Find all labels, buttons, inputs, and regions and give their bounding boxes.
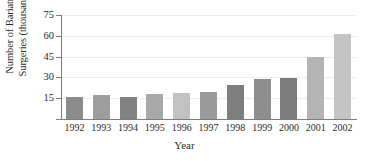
- y-axis-line: [61, 15, 62, 119]
- bariatric-surgeries-bar-chart: Number of Bariatric Surgeries (thousands…: [0, 0, 369, 161]
- chart-title: [150, 0, 290, 1]
- y-tick-label-30: 30: [36, 72, 54, 83]
- x-tick-label-1994: 1994: [114, 122, 142, 133]
- x-tick-label-2002: 2002: [329, 122, 357, 133]
- bar-2000: [280, 78, 297, 119]
- y-axis-title: Number of Bariatric Surgeries (thousands…: [4, 0, 32, 88]
- x-tick-label-1999: 1999: [248, 122, 276, 133]
- y-tick-mark-60: [56, 36, 62, 37]
- y-axis-title-line-1: Number of Bariatric: [4, 0, 17, 88]
- x-tick-label-2001: 2001: [302, 122, 330, 133]
- bar-1992: [66, 97, 83, 119]
- bar-1997: [200, 92, 217, 119]
- x-tick-label-1998: 1998: [221, 122, 249, 133]
- bar-1993: [93, 95, 110, 119]
- y-tick-mark-15: [56, 98, 62, 99]
- y-tick-mark-30: [56, 77, 62, 78]
- gridline-60: [61, 36, 356, 37]
- bar-1996: [173, 93, 190, 119]
- x-tick-label-1992: 1992: [60, 122, 88, 133]
- x-axis-title: Year: [0, 139, 369, 152]
- y-axis-title-line-2: Surgeries (thousands): [17, 0, 30, 88]
- bar-2001: [307, 57, 324, 119]
- x-tick-label-1997: 1997: [195, 122, 223, 133]
- y-tick-label-75: 75: [36, 10, 54, 21]
- x-axis-line: [56, 119, 357, 120]
- y-tick-mark-75: [56, 15, 62, 16]
- bar-1999: [254, 79, 271, 119]
- y-tick-label-60: 60: [36, 31, 54, 42]
- gridline-75: [61, 15, 356, 16]
- y-tick-label-45: 45: [36, 52, 54, 63]
- x-tick-label-1995: 1995: [141, 122, 169, 133]
- x-tick-label-1993: 1993: [87, 122, 115, 133]
- x-tick-label-1996: 1996: [168, 122, 196, 133]
- bar-1998: [227, 85, 244, 119]
- y-tick-mark-45: [56, 57, 62, 58]
- bar-2002: [334, 34, 351, 119]
- bar-1995: [146, 94, 163, 119]
- bar-1994: [120, 97, 137, 119]
- plot-area: [61, 15, 356, 119]
- x-tick-label-2000: 2000: [275, 122, 303, 133]
- y-tick-label-15: 15: [36, 93, 54, 104]
